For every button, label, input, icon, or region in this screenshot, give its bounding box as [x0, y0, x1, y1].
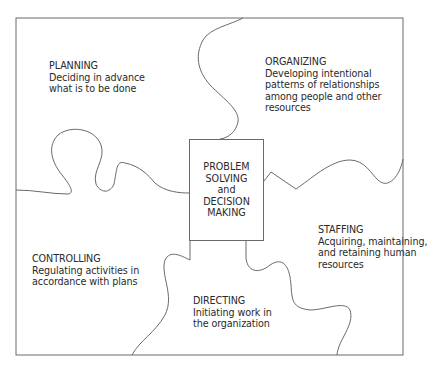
controlling-desc-line: accordance with plans: [32, 276, 139, 288]
organizing-title: ORGANIZING: [265, 56, 381, 68]
piece-planning: PLANNING Deciding in advance what is to …: [49, 60, 145, 95]
center-line: PROBLEM: [203, 161, 249, 173]
controlling-title: CONTROLLING: [32, 253, 139, 265]
divider-controlling-directing: [132, 241, 190, 355]
piece-staffing: STAFFING Acquiring, maintaining, and ret…: [318, 224, 427, 270]
center-line: MAKING: [207, 207, 246, 219]
staffing-title: STAFFING: [318, 224, 427, 236]
piece-directing: DIRECTING Initiating work in the organiz…: [193, 295, 272, 330]
divider-planning-controlling: [16, 129, 189, 194]
controlling-desc-line: Regulating activities in: [32, 265, 139, 277]
staffing-desc-line: resources: [318, 259, 427, 271]
planning-desc-line: what is to be done: [49, 83, 145, 95]
center-line: SOLVING: [206, 173, 248, 185]
piece-organizing: ORGANIZING Developing intentional patter…: [265, 56, 381, 114]
center-line: DECISION: [203, 196, 250, 208]
organizing-desc-line: resources: [265, 102, 381, 114]
directing-desc-line: Initiating work in: [193, 307, 272, 319]
divider-organizing-staffing: [264, 159, 403, 189]
directing-desc-line: the organization: [193, 318, 272, 330]
piece-controlling: CONTROLLING Regulating activities in acc…: [32, 253, 139, 288]
organizing-desc-line: among people and other: [265, 91, 381, 103]
staffing-desc-line: and retaining human: [318, 247, 427, 259]
center-problem-solving-box: PROBLEM SOLVING and DECISION MAKING: [189, 139, 264, 241]
planning-title: PLANNING: [49, 60, 145, 72]
center-line: and: [217, 184, 235, 196]
directing-title: DIRECTING: [193, 295, 272, 307]
staffing-desc-line: Acquiring, maintaining,: [318, 236, 427, 248]
organizing-desc-line: patterns of relationships: [265, 79, 381, 91]
organizing-desc-line: Developing intentional: [265, 68, 381, 80]
divider-planning-organizing: [198, 18, 243, 139]
planning-desc-line: Deciding in advance: [49, 72, 145, 84]
